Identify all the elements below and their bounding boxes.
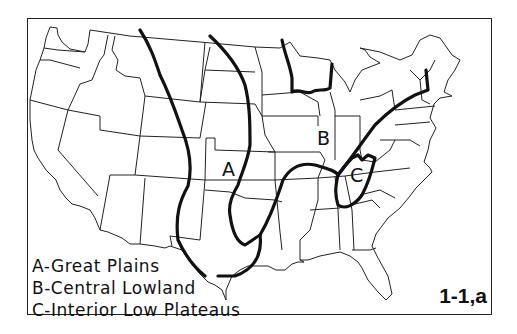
region-label-a: A [222, 158, 235, 180]
figure-label: 1-1,a [439, 284, 487, 308]
legend-item-interior-low-plateaus: C-Interior Low Plateaus [32, 299, 240, 321]
legend: A-Great Plains B-Central Lowland C-Inter… [32, 255, 240, 321]
region-label-c: C [350, 164, 363, 186]
legend-item-great-plains: A-Great Plains [32, 255, 240, 277]
legend-item-central-lowland: B-Central Lowland [32, 277, 240, 299]
region-boundaries [140, 30, 428, 276]
region-label-b: B [317, 127, 330, 149]
